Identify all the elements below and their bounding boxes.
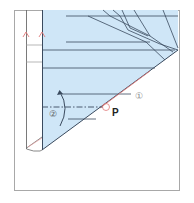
step-2-label: ②: [49, 109, 57, 119]
step-1-label: ①: [135, 91, 143, 101]
origami-diagram: ① ② P: [0, 0, 194, 203]
point-p-label: P: [112, 107, 119, 118]
